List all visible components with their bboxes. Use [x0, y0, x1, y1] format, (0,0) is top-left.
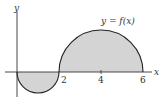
curve-label: y = f(x)	[100, 16, 135, 26]
tick-label-4: 4	[98, 75, 104, 85]
chart: 2 4 6 x y y = f(x)	[0, 0, 164, 99]
y-axis-label: y	[13, 3, 20, 13]
negative-region	[17, 72, 59, 93]
tick-label-2: 2	[61, 75, 67, 85]
x-axis-label: x	[154, 67, 159, 77]
tick-label-6: 6	[140, 75, 146, 85]
positive-region	[59, 30, 143, 72]
chart-svg: 2 4 6 x y y = f(x)	[0, 0, 164, 99]
